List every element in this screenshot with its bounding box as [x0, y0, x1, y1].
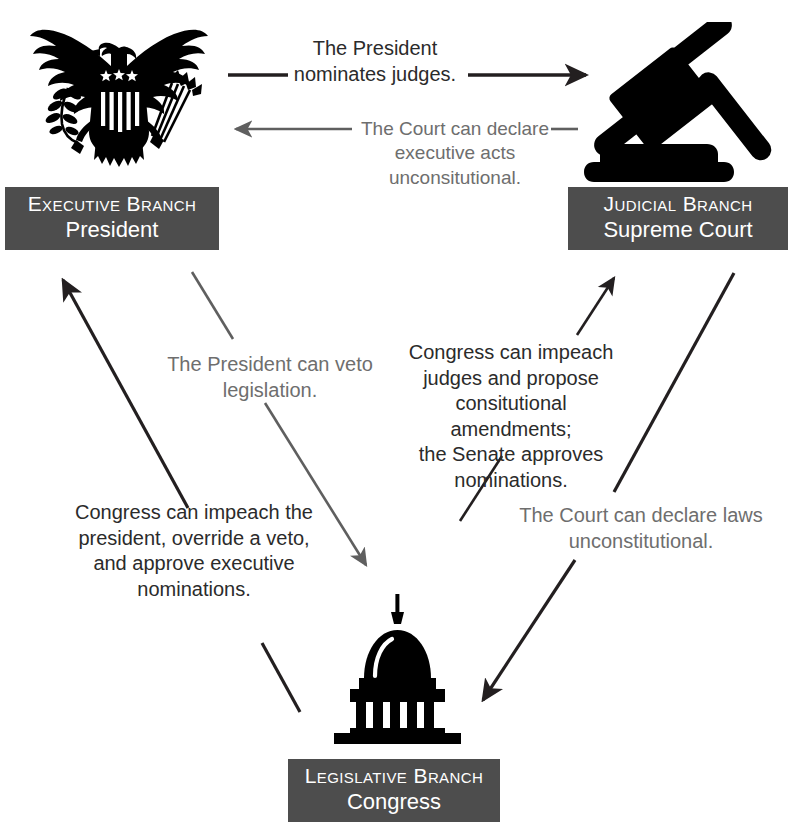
eagle-seal-icon — [8, 14, 230, 186]
caption-congress-checks-courts: Congress can impeach judges and propose … — [395, 340, 627, 494]
legislative-branch-office: Congress — [298, 790, 490, 813]
connector-segment-lower — [483, 560, 575, 700]
caption-line: the Senate approves — [395, 442, 627, 468]
capitol-building-icon — [320, 592, 476, 744]
caption-line: nominations. — [395, 468, 627, 494]
caption-line: executive acts — [355, 141, 555, 165]
caption-court-declares-laws-unconstitutional: The Court can declare laws unconstitutio… — [505, 503, 777, 554]
caption-line: unconsitutional. — [355, 166, 555, 190]
caption-congress-checks-president: Congress can impeach the president, over… — [66, 500, 322, 602]
connector-segment-lower — [262, 643, 300, 712]
label-plate-judicial: Judicial Branch Supreme Court — [568, 187, 788, 250]
caption-line: Congress can impeach the — [66, 500, 322, 526]
caption-president-nominates-judges: The President nominates judges. — [280, 36, 470, 87]
connector-segment-upper — [614, 273, 734, 492]
connector-segment-upper — [192, 272, 233, 339]
judicial-branch-office: Supreme Court — [578, 218, 778, 241]
caption-line: nominations. — [66, 577, 322, 603]
checks-and-balances-diagram: Executive Branch President Judicial Bran… — [0, 0, 792, 835]
label-plate-legislative: Legislative Branch Congress — [288, 759, 500, 822]
gavel-icon — [566, 22, 786, 190]
judicial-branch-title: Judicial Branch — [578, 193, 778, 215]
caption-line: The President can veto — [145, 352, 395, 378]
caption-line: unconstitutional. — [505, 529, 777, 555]
caption-line: consitutional amendments; — [395, 391, 627, 442]
caption-president-vetoes-legislation: The President can veto legislation. — [145, 352, 395, 403]
caption-line: president, override a veto, — [66, 526, 322, 552]
legislative-branch-title: Legislative Branch — [298, 765, 490, 787]
caption-line: The Court can declare — [355, 117, 555, 141]
executive-branch-office: President — [15, 218, 209, 241]
caption-line: nominates judges. — [280, 62, 470, 88]
caption-line: and approve executive — [66, 551, 322, 577]
caption-line: judges and propose — [395, 366, 627, 392]
connector-segment-upper — [577, 278, 614, 335]
caption-line: legislation. — [145, 378, 395, 404]
caption-court-declares-executive-acts: The Court can declare executive acts unc… — [355, 117, 555, 190]
connector-congress-checks-president — [63, 280, 300, 712]
caption-line: Congress can impeach — [395, 340, 627, 366]
caption-line: The President — [280, 36, 470, 62]
label-plate-executive: Executive Branch President — [5, 187, 219, 250]
caption-line: The Court can declare laws — [505, 503, 777, 529]
executive-branch-title: Executive Branch — [15, 193, 209, 215]
